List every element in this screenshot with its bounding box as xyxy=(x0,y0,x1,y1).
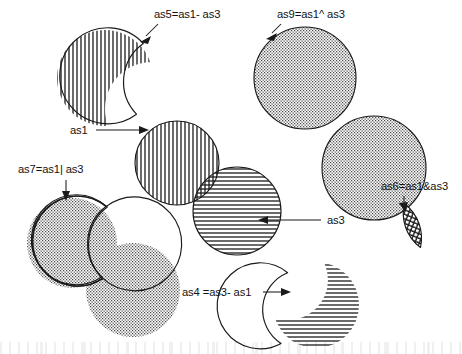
pointer-as1 xyxy=(96,126,149,134)
annotation-as4: as4 =as3- as1 xyxy=(182,286,251,298)
shape-as4 xyxy=(273,262,359,348)
pointer-as3 xyxy=(258,216,321,224)
annotation-as7: as7=as1| as3 xyxy=(18,163,83,175)
shape-as4-outline xyxy=(217,263,287,349)
annotation-as5: as5=as1- as3 xyxy=(154,8,220,20)
annotation-as3: as3 xyxy=(327,214,345,226)
diagram-canvas: as5=as1- as3 as9=as1^ as3 as1 as7=as1| a… xyxy=(0,0,462,354)
pointer-as4 xyxy=(263,288,291,296)
pointer-as5 xyxy=(140,24,158,44)
shape-as7 xyxy=(27,195,182,337)
annotation-as6: as6=as1&as3 xyxy=(381,180,448,192)
annotation-as9: as9=as1^ as3 xyxy=(277,8,345,20)
set-operations-diagram: as5=as1- as3 as9=as1^ as3 as1 as7=as1| a… xyxy=(0,0,462,354)
shape-as6 xyxy=(403,204,421,248)
annotation-as1: as1 xyxy=(70,124,88,136)
